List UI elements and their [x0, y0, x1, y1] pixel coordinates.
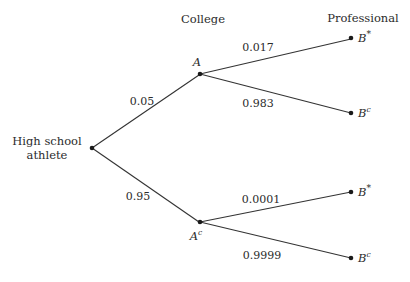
- node-label-A: A: [193, 56, 201, 69]
- node-label-A-complement: Ac: [190, 230, 203, 243]
- probability-tree-figure: College Professional High school athlete…: [0, 0, 410, 282]
- leaf-label-Bstar-upper-superscript: *: [366, 29, 371, 39]
- stage-heading-college: College: [181, 13, 225, 26]
- root-node-label-line2: athlete: [12, 148, 81, 162]
- edge-probability-A-to-Bc: 0.983: [242, 97, 274, 110]
- edge-probability-Ac-to-Bstar: 0.0001: [242, 193, 281, 206]
- edge-A-to-Bstar: [200, 39, 351, 74]
- node-dot-Ac: [198, 220, 203, 225]
- node-dot-A: [198, 72, 203, 77]
- node-label-A-text: A: [193, 55, 201, 69]
- node-dot-Bc-lower: [349, 256, 354, 261]
- node-dot-Bstar-upper: [349, 36, 354, 41]
- edge-probability-A-to-Bstar: 0.017: [242, 41, 274, 54]
- root-node-label: High school athlete: [12, 134, 81, 162]
- node-dot-Bc-upper: [349, 111, 354, 116]
- node-dot-root: [90, 146, 95, 151]
- node-dot-Bstar-lower: [349, 190, 354, 195]
- edge-probability-Ac-to-Bc: 0.9999: [243, 249, 282, 262]
- edge-root-to-Ac: [92, 148, 199, 222]
- leaf-label-Bc-lower-superscript: c: [366, 250, 370, 259]
- leaf-label-Bstar-lower-superscript: *: [366, 183, 371, 193]
- leaf-label-Bstar-upper: B*: [358, 32, 371, 45]
- leaf-label-Bstar-lower: B*: [358, 186, 371, 199]
- leaf-label-Bc-upper: Bc: [358, 107, 371, 120]
- root-node-label-line1: High school: [12, 134, 81, 148]
- stage-heading-professional: Professional: [327, 12, 399, 25]
- edge-root-to-A: [92, 75, 199, 148]
- edge-probability-root-to-A: 0.05: [130, 95, 155, 108]
- edge-probability-root-to-Ac: 0.95: [126, 190, 151, 203]
- leaf-label-Bc-upper-superscript: c: [366, 105, 370, 114]
- edge-A-to-Bc: [200, 74, 351, 113]
- leaf-label-Bc-lower: Bc: [358, 252, 371, 265]
- node-label-Ac-superscript: c: [198, 228, 202, 237]
